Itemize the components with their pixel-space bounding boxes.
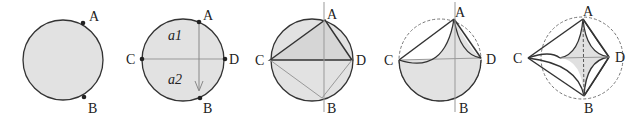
point-b bbox=[198, 96, 203, 101]
label-a2: a2 bbox=[168, 72, 182, 87]
panel-5: A B C D bbox=[513, 4, 625, 116]
label-c: C bbox=[384, 53, 393, 68]
label-a: A bbox=[203, 8, 214, 23]
label-c: C bbox=[513, 51, 522, 66]
panel-3: A B C D bbox=[255, 2, 366, 116]
lower-half-fill bbox=[399, 60, 481, 101]
label-a: A bbox=[89, 9, 100, 24]
point-c bbox=[140, 57, 145, 62]
label-a: A bbox=[455, 5, 466, 20]
label-b: B bbox=[88, 101, 97, 116]
label-a: A bbox=[327, 7, 338, 22]
point-b bbox=[82, 95, 87, 100]
circle bbox=[23, 20, 103, 100]
panel-1: A B bbox=[23, 9, 103, 116]
panel-4: A B C D bbox=[384, 2, 496, 116]
circle bbox=[142, 19, 224, 101]
label-b: B bbox=[327, 101, 336, 116]
point-a bbox=[81, 21, 86, 26]
label-c: C bbox=[255, 53, 264, 68]
label-c: C bbox=[126, 52, 135, 67]
label-d: D bbox=[615, 50, 625, 65]
label-a: A bbox=[583, 4, 594, 19]
label-b: B bbox=[584, 101, 593, 116]
label-a1: a1 bbox=[168, 28, 182, 43]
label-d: D bbox=[356, 53, 366, 68]
construction-diagram: A B A B C D a1 a2 A B C D bbox=[0, 0, 641, 119]
label-b: B bbox=[459, 101, 468, 116]
panel-2: A B C D a1 a2 bbox=[126, 8, 239, 116]
label-d: D bbox=[486, 52, 496, 67]
point-a bbox=[197, 20, 202, 25]
label-d: D bbox=[229, 52, 239, 67]
point-d bbox=[223, 57, 228, 62]
label-b: B bbox=[203, 101, 212, 116]
